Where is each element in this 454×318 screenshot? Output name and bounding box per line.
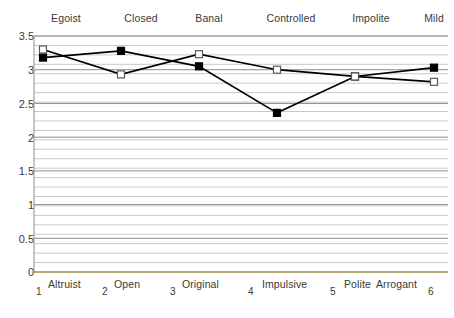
bottom-pole-label: Open [114,278,140,290]
data-point-marker [274,66,281,73]
data-point-marker [40,54,47,61]
gridlines-major [34,36,448,272]
x-axis-tick-label: 1 [36,286,42,297]
data-point-marker [196,63,203,70]
bottom-pole-labels: 123456AltruistOpenOriginalImpulsivePolit… [0,277,454,307]
bottom-pole-label: Original [182,278,219,290]
x-axis-tick-label: 4 [248,286,254,297]
data-point-marker [118,47,125,54]
data-point-marker [274,109,281,116]
gridlines-minor [34,36,448,272]
plot-area [0,0,454,318]
bottom-pole-label: Arrogant [376,278,417,290]
data-point-marker [196,51,203,58]
x-axis-tick-label: 2 [102,286,108,297]
data-point-marker [352,73,359,80]
data-point-marker [118,71,125,78]
bottom-pole-label: Polite [344,278,371,290]
x-axis-tick-label: 5 [330,286,336,297]
bottom-pole-label: Altruist [48,278,81,290]
x-axis-tick-label: 6 [428,286,434,297]
data-point-marker [40,46,47,53]
series-line-series-open [43,49,434,81]
line-chart: EgoistClosedBanalControlledImpoliteMild … [0,0,454,318]
bottom-pole-label: Impulsive [262,278,307,290]
x-axis-tick-label: 3 [170,286,176,297]
data-point-marker [431,64,438,71]
data-point-marker [431,78,438,85]
series-markers [40,46,438,116]
